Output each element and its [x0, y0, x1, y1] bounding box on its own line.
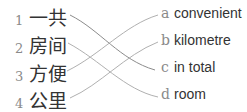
- right-item-b: b kilometre: [161, 32, 231, 48]
- right-item-d: d room: [161, 86, 206, 102]
- item-letter: d: [161, 86, 174, 102]
- chinese-word: 房间: [29, 31, 67, 58]
- right-item-c: c in total: [161, 59, 215, 75]
- english-meaning: in total: [174, 59, 215, 75]
- chinese-word: 公里: [29, 86, 67, 112]
- item-letter: c: [161, 59, 174, 75]
- left-item-3: 3 方便: [15, 59, 67, 86]
- item-letter: a: [161, 5, 174, 21]
- match-line-4-b: [70, 42, 158, 98]
- chinese-word: 一共: [29, 3, 67, 30]
- item-number: 1: [15, 13, 29, 28]
- right-item-a: a convenient: [161, 5, 242, 21]
- english-meaning: kilometre: [174, 32, 231, 48]
- english-meaning: convenient: [174, 5, 242, 21]
- item-number: 2: [15, 41, 29, 56]
- match-line-3-a: [67, 15, 158, 71]
- item-number: 4: [15, 96, 29, 111]
- item-number: 3: [15, 69, 29, 84]
- left-item-1: 1 一共: [15, 3, 67, 30]
- item-letter: b: [161, 32, 174, 48]
- left-item-4: 4 公里: [15, 86, 67, 112]
- english-meaning: room: [174, 86, 206, 102]
- left-item-2: 2 房间: [15, 31, 67, 58]
- chinese-word: 方便: [29, 59, 67, 86]
